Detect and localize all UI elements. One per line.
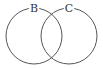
venn-diagram: B C [0, 0, 103, 68]
set-c-label: C [65, 2, 73, 15]
set-c-circle [41, 8, 97, 64]
set-b-circle [6, 8, 62, 64]
set-b-label: B [30, 2, 38, 15]
